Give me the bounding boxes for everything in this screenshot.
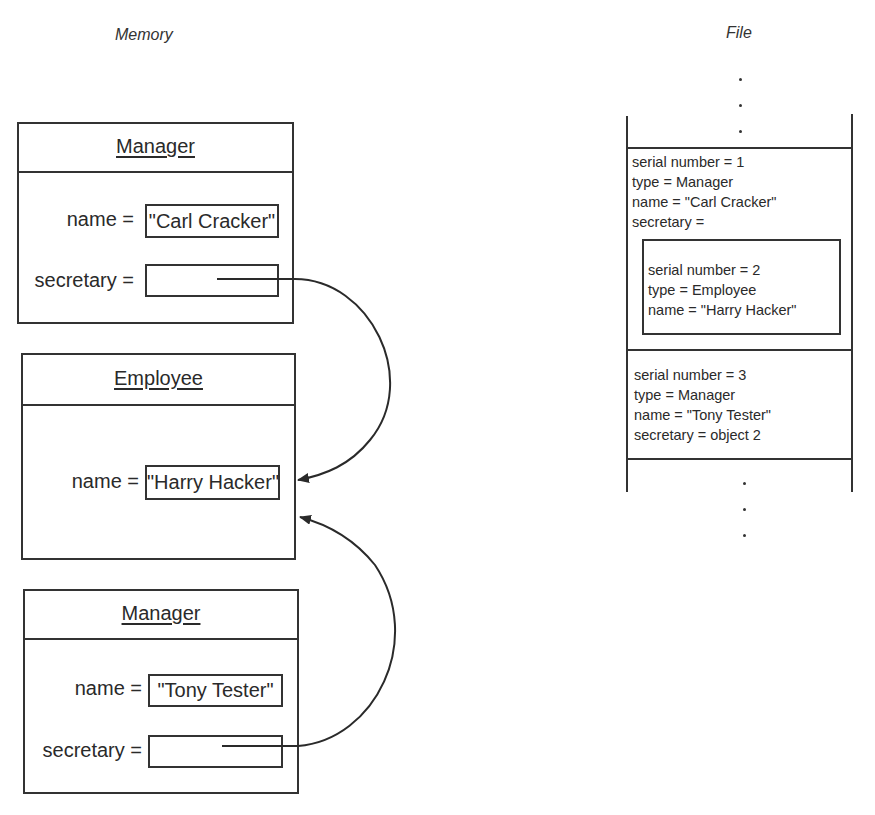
field-value-name: "Carl Cracker" bbox=[145, 204, 279, 238]
field-value-name: "Tony Tester" bbox=[148, 674, 283, 707]
file-left-border bbox=[626, 116, 628, 492]
record-line: serial number = 2 bbox=[648, 261, 760, 281]
field-label-name: name = bbox=[72, 470, 139, 493]
record-divider bbox=[626, 458, 853, 460]
object-class-header: Employee bbox=[23, 355, 294, 406]
field-label-secretary: secretary = bbox=[43, 739, 142, 762]
class-name: Manager bbox=[122, 602, 201, 624]
record-line: secretary = object 2 bbox=[634, 426, 761, 446]
employee-object-harry: Employee name = "Harry Hacker" bbox=[21, 353, 296, 560]
field-label-secretary: secretary = bbox=[35, 269, 134, 292]
memory-column-title: Memory bbox=[115, 26, 173, 44]
record-line: type = Manager bbox=[634, 386, 735, 406]
record-line: name = "Carl Cracker" bbox=[632, 193, 776, 213]
manager-object-carl: Manager name = "Carl Cracker" secretary … bbox=[17, 122, 294, 324]
field-value-name: "Harry Hacker" bbox=[145, 465, 280, 500]
object-class-header: Manager bbox=[19, 124, 292, 173]
manager-object-tony: Manager name = "Tony Tester" secretary = bbox=[23, 589, 299, 794]
class-name: Manager bbox=[116, 135, 195, 157]
record-divider bbox=[626, 349, 853, 351]
record-line: serial number = 3 bbox=[634, 366, 746, 386]
field-label-name: name = bbox=[75, 677, 142, 700]
record-line: name = "Harry Hacker" bbox=[648, 301, 797, 321]
record-line: name = "Tony Tester" bbox=[634, 406, 771, 426]
record-line: secretary = bbox=[632, 213, 704, 233]
record-line: type = Manager bbox=[632, 173, 733, 193]
object-class-header: Manager bbox=[25, 591, 297, 640]
nested-record-2: serial number = 2 type = Employee name =… bbox=[642, 239, 841, 335]
class-name: Employee bbox=[114, 367, 203, 389]
record-line: type = Employee bbox=[648, 281, 756, 301]
file-column-title: File bbox=[726, 24, 752, 42]
file-right-border bbox=[851, 114, 853, 492]
field-value-secretary-reference bbox=[148, 735, 283, 768]
field-label-name: name = bbox=[67, 208, 134, 231]
field-value-secretary-reference bbox=[145, 264, 279, 297]
record-line: serial number = 1 bbox=[632, 153, 744, 173]
record-divider bbox=[626, 147, 853, 149]
